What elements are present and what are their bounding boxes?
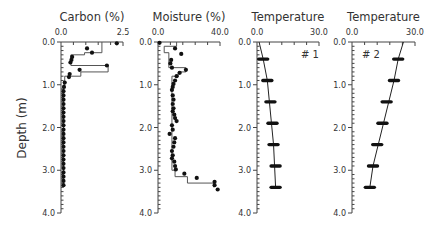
y-tick-label: 3.0 <box>42 166 55 175</box>
data-point <box>178 71 182 75</box>
y-tick-label: 2.0 <box>333 124 346 133</box>
y-tick-label: 4.0 <box>42 209 55 218</box>
data-point <box>175 74 179 78</box>
data-point <box>61 162 65 166</box>
data-point <box>168 132 172 136</box>
x-tick-label: 40.0 <box>211 28 229 37</box>
x-tick-label: 0.0 <box>152 28 165 37</box>
x-tick-label: 0.0 <box>346 28 359 37</box>
data-point <box>170 156 174 160</box>
data-point <box>157 41 161 45</box>
data-point <box>90 51 94 55</box>
data-point <box>170 66 174 70</box>
data-point <box>61 136 65 140</box>
data-point <box>67 75 71 79</box>
y-tick-label: 0.0 <box>139 38 152 47</box>
data-point <box>61 175 65 179</box>
data-point <box>61 98 65 102</box>
data-point <box>63 81 67 85</box>
temperature-1-panel: Temperature0.030.00.01.02.03.04.0# 1 <box>238 10 328 218</box>
data-point <box>61 149 65 153</box>
panel-title: Temperature <box>346 10 420 24</box>
moisture-panel: Moisture (%)0.040.00.01.02.03.04.0 <box>139 10 229 218</box>
data-point <box>170 123 174 127</box>
data-point <box>61 179 65 183</box>
data-point <box>61 119 65 123</box>
panel-title: Moisture (%) <box>152 10 225 24</box>
y-tick-label: 0.0 <box>42 38 55 47</box>
temperature-2-panel: Temperature0.030.00.01.02.03.04.0# 2 <box>333 10 424 218</box>
data-point <box>62 85 66 89</box>
x-tick-label: 2.5 <box>117 28 130 37</box>
depth-profile-figure: Depth (m) Carbon (%)0.02.50.01.02.03.04.… <box>0 0 444 230</box>
y-tick-label: 3.0 <box>333 166 346 175</box>
data-point <box>216 187 220 191</box>
data-point <box>184 68 188 72</box>
data-point <box>61 123 65 127</box>
y-tick-label: 3.0 <box>238 166 251 175</box>
y-tick-label: 1.0 <box>333 81 346 90</box>
data-point <box>61 106 65 110</box>
data-point <box>179 52 183 56</box>
y-tick-label: 4.0 <box>238 209 251 218</box>
x-tick-label: 0.0 <box>55 28 68 37</box>
data-point <box>78 68 82 72</box>
data-point <box>173 46 177 50</box>
data-point <box>171 102 175 106</box>
carbon-panel: Carbon (%)0.02.50.01.02.03.04.0 <box>42 10 129 218</box>
y-tick-label: 0.0 <box>333 38 346 47</box>
data-point <box>174 167 178 171</box>
site-annotation: # 1 <box>301 49 319 60</box>
panel-title: Carbon (%) <box>60 10 125 24</box>
y-tick-label: 1.0 <box>42 81 55 90</box>
data-point <box>171 145 175 149</box>
data-point <box>61 140 65 144</box>
y-tick-label: 4.0 <box>333 209 346 218</box>
data-point <box>61 89 65 93</box>
data-point <box>171 93 175 97</box>
data-point <box>172 160 176 164</box>
data-point <box>170 88 174 92</box>
data-point <box>115 41 119 45</box>
data-point <box>172 140 176 144</box>
y-tick-label: 2.0 <box>238 124 251 133</box>
y-tick-label: 0.0 <box>238 38 251 47</box>
data-point <box>61 170 65 174</box>
data-point <box>61 183 65 187</box>
data-point <box>61 93 65 97</box>
y-tick-label: 1.0 <box>139 81 152 90</box>
data-point <box>61 128 65 132</box>
y-tick-label: 3.0 <box>139 166 152 175</box>
y-tick-label: 1.0 <box>238 81 251 90</box>
data-point <box>61 145 65 149</box>
x-tick-label: 30.0 <box>310 28 328 37</box>
site-annotation: # 2 <box>362 49 380 60</box>
data-point <box>212 183 216 187</box>
data-point <box>61 110 65 114</box>
data-point <box>61 132 65 136</box>
x-tick-label: 30.0 <box>406 28 424 37</box>
data-point <box>85 46 89 50</box>
y-tick-label: 4.0 <box>139 209 152 218</box>
y-tick-label: 2.0 <box>139 124 152 133</box>
data-point <box>68 60 72 64</box>
data-point <box>170 149 174 153</box>
data-point <box>61 166 65 170</box>
data-point <box>182 172 186 176</box>
y-axis-label: Depth (m) <box>15 97 29 158</box>
data-point <box>61 157 65 161</box>
data-point <box>195 176 199 180</box>
x-tick-label: 0.0 <box>251 28 264 37</box>
data-point <box>171 98 175 102</box>
y-tick-label: 2.0 <box>42 124 55 133</box>
data-point <box>171 128 175 132</box>
data-point <box>168 61 172 65</box>
data-point <box>61 102 65 106</box>
data-point <box>173 136 177 140</box>
data-point <box>61 115 65 119</box>
data-point <box>61 153 65 157</box>
data-point <box>175 119 179 123</box>
data-point <box>105 63 109 67</box>
panel-title: Temperature <box>251 10 325 24</box>
